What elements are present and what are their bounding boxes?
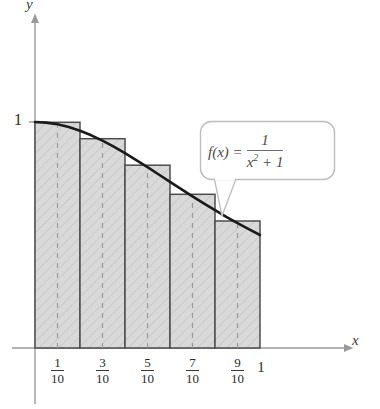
formula-fraction: 1 x2 + 1 bbox=[247, 133, 284, 171]
fraction-7-10: 7 10 bbox=[186, 356, 199, 385]
y-axis-tick-label-1: 1 bbox=[14, 111, 22, 129]
fraction-denominator: 10 bbox=[51, 371, 64, 385]
x-axis-tick-label-1: 1 bbox=[257, 356, 265, 375]
x-axis-tick-3-10: 3 10 bbox=[83, 356, 123, 387]
function-formula: f(x) = 1 x2 + 1 bbox=[208, 130, 330, 174]
formula-numerator: 1 bbox=[247, 133, 284, 151]
formula-left-hand-side: f(x) = bbox=[208, 144, 247, 161]
fraction-3-10: 3 10 bbox=[96, 356, 109, 385]
fraction-numerator: 1 bbox=[51, 356, 64, 371]
y-axis-label: y bbox=[26, 0, 33, 13]
x-axis-tick-5-10: 5 10 bbox=[128, 356, 168, 387]
fraction-denominator: 10 bbox=[96, 371, 109, 385]
x-axis-tick-1: 1 bbox=[241, 356, 281, 376]
fraction-denominator: 10 bbox=[186, 371, 199, 385]
x-axis-tick-7-10: 7 10 bbox=[173, 356, 213, 387]
fraction-5-10: 5 10 bbox=[141, 356, 154, 385]
denominator-tail: + 1 bbox=[262, 154, 283, 170]
fraction-numerator: 7 bbox=[186, 356, 199, 371]
denominator-exponent: 2 bbox=[253, 152, 258, 163]
fraction-1-10: 1 10 bbox=[51, 356, 64, 385]
x-axis-label: x bbox=[352, 332, 359, 349]
formula-denominator: x2 + 1 bbox=[247, 151, 284, 171]
x-axis-tick-1-10: 1 10 bbox=[38, 356, 78, 387]
riemann-sum-figure bbox=[0, 0, 380, 409]
fraction-denominator: 10 bbox=[141, 371, 154, 385]
fraction-numerator: 5 bbox=[141, 356, 154, 371]
fraction-numerator: 3 bbox=[96, 356, 109, 371]
